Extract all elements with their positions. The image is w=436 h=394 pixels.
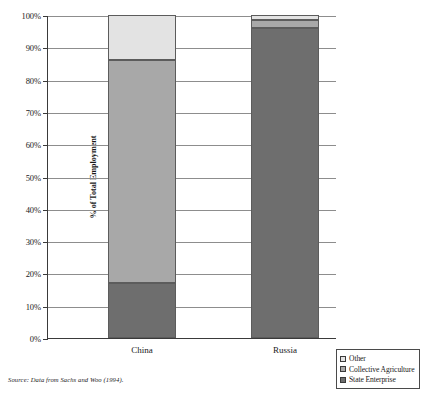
y-axis-tick [43,81,48,82]
y-axis-tick-label: 30% [26,237,41,247]
y-axis-tick [43,178,48,179]
bar-segment-collective-agriculture[interactable] [108,60,176,283]
y-axis-tick [43,210,48,211]
y-axis-tick-label: 0% [30,334,41,344]
y-axis-tick-label: 100% [22,11,41,21]
bar-segment-state-enterprise[interactable] [108,283,176,338]
chart-legend: OtherCollective AgricultureState Enterpr… [336,349,420,389]
y-axis-tick-label: 60% [26,140,41,150]
legend-item-label: Other [349,354,366,363]
source-note: Source: Data from Sachs and Woo (1994). [8,376,123,383]
legend-item-state-enterprise[interactable]: State Enterprise [340,375,415,385]
y-axis-tick-label: 20% [26,269,41,279]
legend-item-other[interactable]: Other [340,354,415,364]
bar-segment-state-enterprise[interactable] [251,28,319,338]
x-axis-label-russia: Russia [251,345,319,355]
legend-item-label: State Enterprise [349,375,396,384]
legend-item-label: Collective Agriculture [349,365,415,374]
y-axis-tick-label: 50% [26,173,41,183]
y-axis-tick [43,242,48,243]
legend-swatch-icon [340,377,346,383]
legend-swatch-icon [340,366,346,372]
y-axis-tick [43,16,48,17]
y-axis-tick [43,339,48,340]
y-axis-tick-label: 80% [26,76,41,86]
bar-segment-collective-agriculture[interactable] [251,20,319,28]
y-axis-tick-label: 40% [26,205,41,215]
legend-swatch-icon [340,356,346,362]
x-axis-label-china: China [108,345,176,355]
bar-segment-other[interactable] [108,15,176,60]
y-axis-tick [43,307,48,308]
y-axis-tick-label: 70% [26,108,41,118]
y-axis-tick [43,113,48,114]
y-axis-tick-label: 90% [26,43,41,53]
chart-figure: % of Total Employment 0%10%20%30%40%50%6… [0,0,436,394]
plot-area: % of Total Employment 0%10%20%30%40%50%6… [47,16,336,339]
y-axis-tick [43,274,48,275]
legend-item-collective-agriculture[interactable]: Collective Agriculture [340,364,415,374]
bar-china[interactable]: China [108,15,176,338]
y-axis-tick [43,145,48,146]
y-axis-tick [43,48,48,49]
bar-segment-other[interactable] [251,15,319,20]
y-axis-tick-label: 10% [26,302,41,312]
bar-russia[interactable]: Russia [251,15,319,338]
